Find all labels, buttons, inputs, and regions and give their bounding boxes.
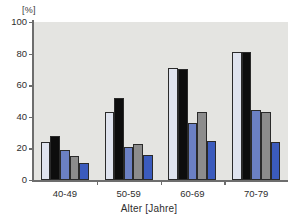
y-axis-tick: 80 (0, 54, 33, 55)
bar (133, 144, 143, 180)
y-tick-mark (29, 22, 33, 23)
bar (124, 147, 134, 180)
y-axis-tick: 40 (0, 117, 33, 118)
bar (188, 123, 198, 180)
bar (143, 155, 153, 180)
bar (207, 141, 217, 181)
y-tick-mark (29, 85, 33, 86)
x-tick-mark (224, 181, 225, 185)
y-tick-label: 20 (16, 142, 27, 153)
y-tick-label: 60 (16, 79, 27, 90)
x-axis-group-label: 50-59 (116, 188, 140, 199)
x-axis-group-label: 40-49 (53, 188, 77, 199)
bar (41, 142, 51, 180)
y-tick-mark (29, 54, 33, 55)
bar (242, 52, 252, 180)
x-axis-title: Alter [Jahre] (0, 203, 298, 214)
plot-area (33, 22, 288, 180)
y-tick-label: 40 (16, 111, 27, 122)
bar-chart: [%] 020406080100 40-4950-5960-6970-79 Al… (0, 0, 298, 221)
y-tick-mark (29, 180, 33, 181)
y-tick-mark (29, 148, 33, 149)
bar (50, 136, 60, 180)
bar (168, 68, 178, 180)
y-axis-tick: 20 (0, 148, 33, 149)
y-tick-mark (29, 117, 33, 118)
bar (261, 112, 271, 180)
bar (79, 163, 89, 180)
bar (105, 112, 115, 180)
y-axis-tick: 0 (0, 180, 33, 181)
y-axis-tick: 100 (0, 22, 33, 23)
bar (251, 110, 261, 180)
bar (197, 112, 207, 180)
bar (70, 156, 80, 180)
y-axis-line (32, 20, 34, 181)
y-axis-tick: 60 (0, 85, 33, 86)
bar (114, 98, 124, 180)
y-tick-label: 80 (16, 48, 27, 59)
bar (271, 142, 281, 180)
x-tick-mark (97, 181, 98, 185)
bar (232, 52, 242, 180)
x-tick-mark (161, 181, 162, 185)
y-tick-label: 0 (22, 174, 27, 185)
x-axis-group-label: 70-79 (244, 188, 268, 199)
y-tick-label: 100 (11, 16, 27, 27)
bar (60, 150, 70, 180)
bar (178, 69, 188, 180)
y-axis-unit-label: [%] (22, 5, 36, 15)
x-axis-group-label: 60-69 (180, 188, 204, 199)
